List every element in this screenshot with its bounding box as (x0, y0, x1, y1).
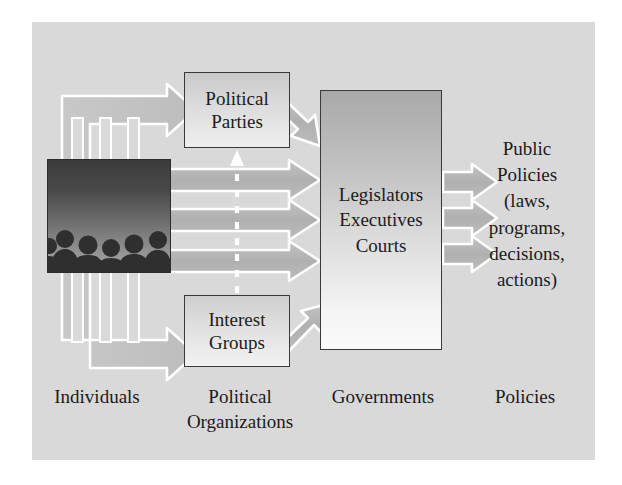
caption-governments: Governments (312, 385, 454, 410)
policies-line-2: Policies (452, 162, 602, 188)
caption-governments-label: Governments (312, 385, 454, 410)
public-policies-text: Public Policies (laws, programs, decisio… (452, 136, 602, 293)
crowd-of-people-photo (47, 159, 171, 273)
policies-line-1: Public (452, 136, 602, 162)
governments-line-1: Legislators (339, 183, 423, 206)
box-political-parties[interactable]: Political Parties (184, 72, 290, 148)
governments-line-2: Executives (339, 208, 422, 231)
political-parties-line-1: Political (205, 87, 268, 110)
caption-individuals: Individuals (32, 385, 162, 410)
caption-policies: Policies (460, 385, 590, 410)
caption-political-organizations-line-1: Political (160, 385, 320, 410)
diagram-root: Political Parties Interest Groups Legisl… (0, 0, 622, 485)
caption-political-organizations-line-2: Organizations (160, 410, 320, 435)
interest-groups-line-2: Groups (209, 331, 265, 354)
policies-line-6: actions) (452, 267, 602, 293)
policies-line-3: (laws, (452, 188, 602, 214)
political-parties-line-2: Parties (211, 110, 263, 133)
caption-political-organizations: Political Organizations (160, 385, 320, 434)
caption-individuals-label: Individuals (32, 385, 162, 410)
policies-line-4: programs, (452, 215, 602, 241)
policies-line-5: decisions, (452, 241, 602, 267)
interest-groups-line-1: Interest (209, 308, 266, 331)
caption-policies-label: Policies (460, 385, 590, 410)
box-interest-groups[interactable]: Interest Groups (184, 295, 290, 367)
box-governments[interactable]: Legislators Executives Courts (320, 90, 442, 350)
people-silhouettes-icon (48, 160, 171, 273)
governments-line-3: Courts (356, 234, 407, 257)
